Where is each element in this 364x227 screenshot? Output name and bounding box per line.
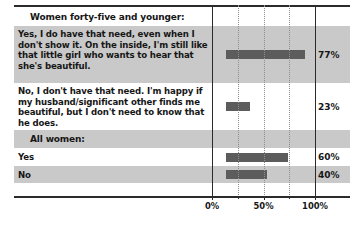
chart-row: No	[14, 166, 350, 183]
chart-rows-table: Women forty-five and younger:Yes, I do h…	[14, 7, 350, 183]
axis-tick	[264, 196, 265, 200]
section-header-row: Women forty-five and younger:	[14, 7, 350, 26]
axis-tick-label: 100%	[302, 201, 328, 211]
chart-bar	[226, 102, 250, 111]
chart-row-label: Yes, I do have that need, even when I do…	[18, 26, 208, 72]
axis-tick	[315, 196, 316, 200]
chart-bar	[226, 170, 267, 179]
chart-row-plot-area	[212, 166, 329, 183]
x-axis: 0%50%100%	[212, 196, 315, 222]
chart-value-label: 77%	[318, 50, 352, 60]
axis-minor-tick	[238, 196, 239, 199]
chart-bar	[226, 50, 305, 59]
chart-value-label: 60%	[318, 152, 352, 162]
axis-tick-label: 0%	[205, 201, 219, 211]
chart-row-label: No	[18, 166, 208, 181]
axis-tick-label: 50%	[253, 201, 273, 211]
chart-row: Yes, I do have that need, even when I do…	[14, 26, 350, 83]
section-header-plot-area	[212, 130, 329, 148]
chart-row-label: No, I don't have that need. I'm happy if…	[18, 83, 208, 129]
section-header-plot-area	[212, 7, 329, 26]
chart-row-plot-area	[212, 148, 329, 166]
axis-minor-tick	[289, 196, 290, 199]
chart-row-plot-area	[212, 83, 329, 130]
chart-row-label: Yes	[18, 148, 208, 163]
chart-bar	[226, 153, 288, 162]
section-header-label: All women:	[30, 130, 220, 145]
chart-row-plot-area	[212, 26, 329, 83]
chart-value-label: 23%	[318, 102, 352, 112]
section-header-label: Women forty-five and younger:	[30, 7, 220, 23]
chart-figure: Women forty-five and younger:Yes, I do h…	[0, 0, 364, 227]
chart-value-label: 40%	[318, 170, 352, 180]
chart-row: No, I don't have that need. I'm happy if…	[14, 83, 350, 130]
axis-tick	[212, 196, 213, 200]
chart-row: Yes	[14, 148, 350, 166]
section-header-row: All women:	[14, 130, 350, 148]
